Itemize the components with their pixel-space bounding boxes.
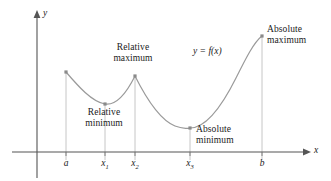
point-marker-x2 xyxy=(133,74,136,77)
tick-label-x3-sub: 3 xyxy=(190,163,193,170)
tick-label-b: b xyxy=(252,158,272,168)
tick-label-a-text: a xyxy=(64,158,69,168)
annotation-absolute-minimum-line1: Absolute xyxy=(196,124,231,134)
tick-label-x1: x1 xyxy=(95,158,115,170)
annotation-relative-maximum-line2: maximum xyxy=(113,53,152,63)
annotation-absolute-maximum: Absolute maximum xyxy=(267,24,327,45)
point-marker-x3 xyxy=(188,126,191,129)
annotation-absolute-minimum: Absolute minimum xyxy=(196,124,256,145)
calculus-extrema-figure: y x a x1 x2 x3 b y = f(x) Relative maxim… xyxy=(0,0,331,181)
annotation-relative-minimum: Relative minimum xyxy=(74,107,134,128)
x-axis-arrowhead xyxy=(303,149,311,156)
annotation-absolute-maximum-line2: maximum xyxy=(267,35,306,45)
tick-label-x1-sub: 1 xyxy=(105,163,108,170)
y-axis xyxy=(34,10,41,178)
y-axis-label: y xyxy=(43,8,47,18)
function-label: y = f(x) xyxy=(193,46,222,56)
x-axis-ticks xyxy=(66,152,262,156)
tick-label-x3: x3 xyxy=(180,158,200,170)
annotation-absolute-minimum-line2: minimum xyxy=(196,135,234,145)
tick-label-a: a xyxy=(56,158,76,168)
annotation-relative-maximum-line1: Relative xyxy=(117,42,149,52)
annotation-relative-maximum: Relative maximum xyxy=(103,42,163,63)
annotation-absolute-maximum-line1: Absolute xyxy=(267,24,302,34)
y-axis-arrowhead xyxy=(34,10,41,18)
tick-label-x2: x2 xyxy=(125,158,145,170)
point-marker-x1 xyxy=(103,102,106,105)
tick-label-x2-sub: 2 xyxy=(135,163,138,170)
x-axis xyxy=(12,149,311,156)
x-axis-label: x xyxy=(314,145,318,155)
tick-label-b-text: b xyxy=(260,158,265,168)
annotation-relative-minimum-line1: Relative xyxy=(88,107,120,117)
annotation-relative-minimum-line2: minimum xyxy=(85,118,123,128)
point-marker-b xyxy=(260,34,263,37)
point-marker-a xyxy=(64,70,67,73)
